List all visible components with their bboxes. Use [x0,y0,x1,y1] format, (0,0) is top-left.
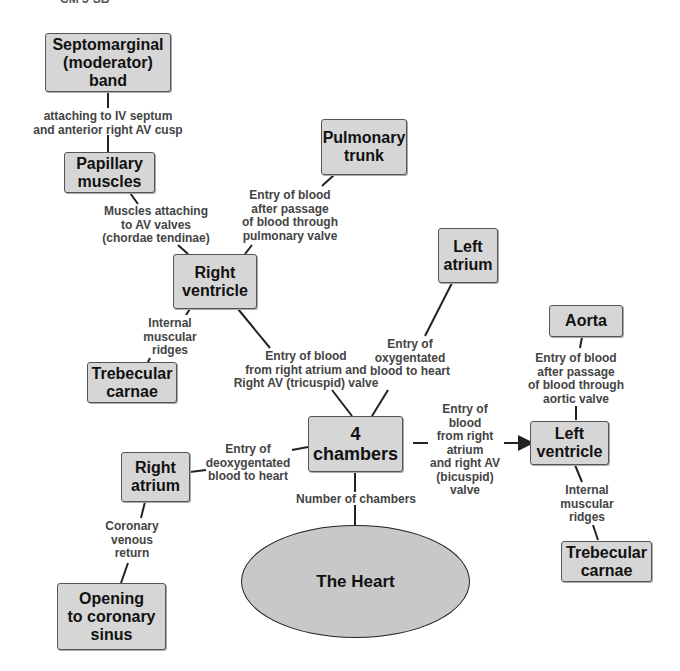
label-bicuspid: Entry of blood from right atrium and rig… [430,403,500,498]
label-chordae: Muscles attaching to AV valves (chordae … [102,205,209,246]
node-aorta: Aorta [549,305,623,337]
node-left-atrium: Left atrium [438,228,498,283]
node-four-chambers: 4 chambers [308,416,403,472]
node-trabecular-left: Trebecular carnae [561,541,652,582]
label-septum: attaching to IV septum and anterior righ… [33,110,182,137]
node-pulmonary-trunk: Pulmonary trunk [321,119,407,175]
node-left-ventricle: Left ventricle [530,421,609,465]
label-coronary-return: Coronary venous return [105,520,158,561]
label-number-of-chambers: Number of chambers [296,493,416,507]
label-ridges-left: Internal muscular ridges [560,484,613,525]
concept-map: CM 3-SB [0,0,680,671]
label-aortic: Entry of blood after passage of blood th… [528,352,624,406]
label-ridges-right: Internal muscular ridges [143,317,196,358]
node-coronary-sinus: Opening to coronary sinus [57,583,166,650]
node-right-atrium: Right atrium [121,452,190,502]
label-pulmonary: Entry of blood after passage of blood th… [242,189,338,243]
node-papillary-muscles: Papillary muscles [64,152,155,193]
label-oxy: Entry of oxygentated blood to heart [370,338,450,379]
node-septomarginal-band: Septomarginal (moderator) band [45,33,171,92]
label-deoxy: Entry of deoxygentated blood to heart [206,443,291,484]
label-tricuspid: Entry of blood from right atrium and Rig… [234,350,379,391]
node-right-ventricle: Right ventricle [173,254,257,309]
node-the-heart: The Heart [241,525,470,638]
node-trabecular-right: Trebecular carnae [87,362,177,403]
